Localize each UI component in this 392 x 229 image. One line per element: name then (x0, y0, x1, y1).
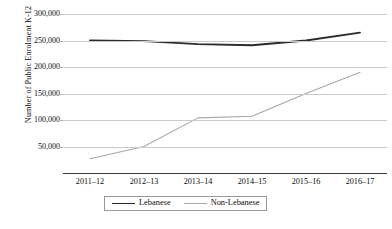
legend-line-swatch-lebanese (112, 203, 135, 204)
legend-label-lebanese: Lebanese (139, 198, 171, 208)
x-axis-tick-label: 2014–15 (222, 177, 282, 187)
x-axis-tick-label: 2013–14 (168, 177, 228, 187)
gridline (63, 94, 387, 95)
y-axis-tick-labels: 300,000250,000200,000150,000100,00050,00… (16, 0, 60, 176)
x-axis-tick-label: 2015–16 (276, 177, 336, 187)
gridline (63, 67, 387, 68)
x-axis-tick-labels: 2011–122012–132013–142014–152015–162016–… (63, 177, 387, 191)
y-axis-tick-mark (59, 14, 63, 15)
plot-area (63, 14, 387, 173)
y-axis-tick-label: 150,000 (16, 90, 60, 98)
gridline (63, 120, 387, 121)
x-axis-tick-label: 2011–12 (60, 177, 120, 187)
y-axis-tick-label: 250,000 (16, 37, 60, 45)
x-axis-tick-label: 2012–13 (114, 177, 174, 187)
gridline (63, 147, 387, 148)
line-chart: Number of Public Enrolment K-12 300,0002… (0, 0, 392, 229)
y-axis-tick-label: 100,000 (16, 116, 60, 124)
y-axis-tick-mark (59, 147, 63, 148)
y-axis-tick-mark (59, 94, 63, 95)
x-axis-line (63, 173, 387, 174)
gridline (63, 14, 387, 15)
y-axis-tick-mark (59, 67, 63, 68)
chart-legend: LebaneseNon-Lebanese (104, 196, 267, 211)
legend-entry-non-lebanese[interactable]: Non-Lebanese (184, 198, 260, 208)
y-axis-tick-mark (59, 120, 63, 121)
legend-line-swatch-non-lebanese (184, 203, 207, 204)
series-line-lebanese (90, 33, 360, 46)
y-axis-tick-label: 300,000 (16, 10, 60, 18)
gridline (63, 41, 387, 42)
y-axis-tick-mark (59, 41, 63, 42)
legend-entry-lebanese[interactable]: Lebanese (112, 198, 171, 208)
legend-label-non-lebanese: Non-Lebanese (211, 198, 260, 208)
x-axis-tick-label: 2016–17 (330, 177, 390, 187)
y-axis-tick-label: 200,000 (16, 63, 60, 71)
y-axis-tick-label: 50,000 (16, 143, 60, 151)
